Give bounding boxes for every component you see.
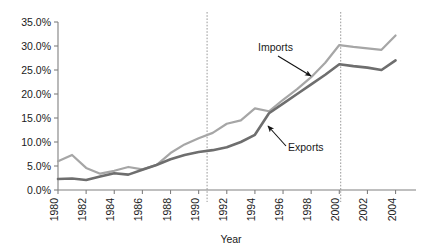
data-series bbox=[58, 35, 396, 179]
y-tick-label: 0.0% bbox=[27, 184, 51, 196]
chart-container: 0.0%5.0%10.0%15.0%20.0%25.0%30.0%35.0% 1… bbox=[0, 0, 424, 251]
y-tick-label: 30.0% bbox=[21, 40, 51, 52]
x-tick-label: 1986 bbox=[132, 198, 144, 222]
imports-annotation-arrow bbox=[278, 56, 311, 76]
x-tick-label: 1994 bbox=[245, 198, 257, 222]
y-tick-label: 15.0% bbox=[21, 112, 51, 124]
series-line-imports bbox=[58, 35, 396, 173]
imports-annotation-label: Imports bbox=[258, 41, 293, 53]
y-tick-label: 35.0% bbox=[21, 16, 51, 28]
y-tick-label: 20.0% bbox=[21, 88, 51, 100]
exports-annotation-arrow bbox=[268, 126, 286, 146]
x-axis bbox=[58, 190, 416, 194]
x-tick-label: 1992 bbox=[217, 198, 229, 222]
x-tick-label: 2000 bbox=[329, 198, 341, 222]
x-tick-labels: 1980198219841986198819901992199419961998… bbox=[48, 198, 398, 222]
x-tick-label: 1988 bbox=[161, 198, 173, 222]
x-tick-label: 1980 bbox=[48, 198, 60, 222]
line-chart: 0.0%5.0%10.0%15.0%20.0%25.0%30.0%35.0% 1… bbox=[0, 0, 424, 251]
x-tick-label: 2004 bbox=[386, 198, 398, 222]
exports-annotation-label: Exports bbox=[288, 141, 324, 153]
y-tick-label: 5.0% bbox=[27, 160, 51, 172]
series-line-exports bbox=[58, 60, 396, 180]
y-tick-label: 10.0% bbox=[21, 136, 51, 148]
x-tick-label: 1982 bbox=[76, 198, 88, 222]
x-tick-label: 1984 bbox=[104, 198, 116, 222]
x-axis-title: Year bbox=[220, 233, 242, 245]
y-tick-labels: 0.0%5.0%10.0%15.0%20.0%25.0%30.0%35.0% bbox=[21, 16, 51, 196]
y-tick-label: 25.0% bbox=[21, 64, 51, 76]
x-tick-label: 1996 bbox=[273, 198, 285, 222]
x-tick-label: 2002 bbox=[357, 198, 369, 222]
x-tick-label: 1998 bbox=[301, 198, 313, 222]
y-axis bbox=[54, 22, 58, 190]
x-tick-label: 1990 bbox=[189, 198, 201, 222]
